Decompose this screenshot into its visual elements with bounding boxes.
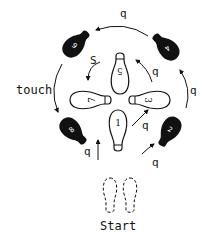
label-3-to-5: q [152, 65, 159, 78]
start-left-foot [103, 178, 117, 212]
label-5-to-7: S [90, 54, 97, 67]
label-start: Start [100, 219, 136, 233]
svg-text:5: 5 [117, 66, 123, 76]
outer-step-4: 4 [148, 29, 184, 65]
outer-step-2: 2 [153, 113, 185, 150]
label-1-to-3: q [142, 119, 149, 132]
label-touch: touch [16, 83, 52, 97]
start-right-foot [123, 178, 137, 212]
dance-step-diagram: 5 1 3 7 6 4 8 2 q q q S q q q touch Star… [0, 0, 208, 238]
start-feet [103, 178, 137, 212]
svg-text:1: 1 [115, 118, 121, 128]
arrow-4-to-6 [96, 26, 148, 36]
arrow-2-to-4 [180, 70, 188, 108]
svg-text:3: 3 [143, 97, 153, 103]
label-start-to-1: q [84, 145, 91, 158]
arrow-3-to-5 [136, 60, 152, 82]
label-start-to-2: q [152, 156, 159, 169]
inner-step-5: 5 [111, 53, 128, 94]
inner-step-7: 7 [70, 91, 111, 108]
label-4-to-6: q [120, 7, 127, 20]
svg-text:7: 7 [87, 97, 97, 103]
arrow-6-to-8 [54, 64, 62, 112]
arrow-start-to-2 [142, 144, 154, 154]
label-2-to-4: q [190, 84, 197, 97]
inner-step-1: 1 [109, 110, 126, 151]
inner-step-3: 3 [129, 91, 170, 108]
